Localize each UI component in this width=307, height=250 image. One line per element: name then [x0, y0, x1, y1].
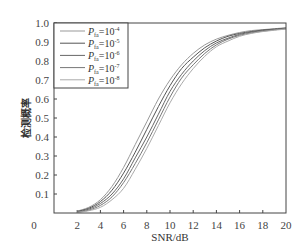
y-tick-label: 0.7: [35, 74, 49, 86]
x-tick-label: 10: [165, 219, 177, 231]
x-tick-label: 20: [281, 219, 293, 231]
y-tick-label: 0.1: [35, 188, 49, 200]
x-tick-label: 0: [31, 219, 37, 231]
x-tick-label: 6: [121, 219, 127, 231]
x-tick-label: 2: [74, 219, 80, 231]
y-tick-label: 1.0: [35, 17, 49, 29]
x-tick-label: 4: [98, 219, 104, 231]
y-tick-label: 0.4: [35, 131, 49, 143]
x-axis-label: SNR/dB: [151, 231, 188, 243]
y-tick-label: 0.8: [35, 55, 49, 67]
y-tick-label: 0.6: [35, 93, 49, 105]
x-tick-label: 14: [211, 219, 223, 231]
y-tick-label: 0.9: [35, 36, 49, 48]
x-tick-label: 18: [257, 219, 269, 231]
x-tick-label: 12: [188, 219, 199, 231]
x-tick-label: 8: [144, 219, 150, 231]
detection-probability-chart: 0.10.20.30.40.50.60.70.80.91.0 024681012…: [0, 0, 307, 250]
y-axis-label: 检测概率: [20, 98, 32, 138]
x-tick-label: 16: [234, 219, 246, 231]
legend: Pfa=10-4Pfa=10-5Pfa=10-6Pfa=10-7Pfa=10-8: [54, 23, 128, 88]
y-tick-label: 0.2: [35, 169, 49, 181]
y-tick-label: 0.3: [35, 150, 49, 162]
y-tick-label: 0.5: [35, 112, 49, 124]
